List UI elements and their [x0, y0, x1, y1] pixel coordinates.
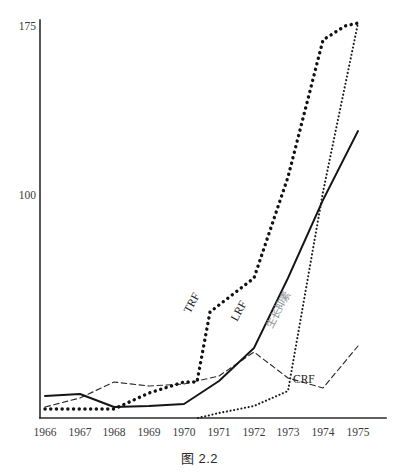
figure-caption: 图 2.2	[0, 448, 399, 467]
x-tick-label-1969: 1969	[138, 426, 161, 438]
caption-number: 2.2	[194, 451, 218, 466]
y-tick-label-175: 175	[19, 20, 37, 32]
series-label-lrf: LRF	[228, 299, 248, 323]
x-tick-label-1971: 1971	[208, 426, 231, 438]
series-line-lrf	[45, 131, 358, 407]
y-tick-label-100: 100	[19, 189, 37, 201]
x-tick-label-1974: 1974	[312, 426, 335, 438]
x-tick-label-1972: 1972	[243, 426, 266, 438]
series-label-crf: CRF	[293, 373, 315, 385]
series-label-somatostatin: 生长抑素	[263, 289, 292, 330]
series-line-somatostatin	[198, 23, 358, 418]
series-line-trf	[45, 23, 358, 409]
series-label-trf: TRF	[181, 291, 201, 315]
x-tick-label-1967: 1967	[69, 426, 92, 438]
x-tick-label-1973: 1973	[277, 426, 300, 438]
series-label-trf-group: TRF	[181, 291, 201, 315]
x-tick-label-1975: 1975	[347, 426, 370, 438]
x-tick-label-1966: 1966	[34, 426, 57, 438]
line-chart: 175 100 1966 1967 1968 1969 1970 1971 19…	[0, 0, 399, 476]
caption-prefix: 图	[181, 451, 195, 466]
series-label-somatostatin-group: 生长抑素	[263, 289, 292, 330]
series-label-lrf-group: LRF	[228, 299, 248, 323]
x-tick-label-1968: 1968	[103, 426, 126, 438]
figure-container: 175 100 1966 1967 1968 1969 1970 1971 19…	[0, 0, 399, 476]
x-tick-label-1970: 1970	[173, 426, 196, 438]
